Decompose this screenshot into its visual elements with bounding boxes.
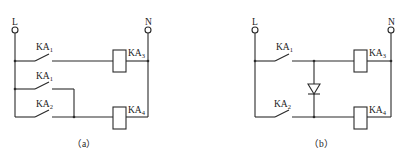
terminal-n-b (388, 27, 394, 33)
coil-label-ka3-a: KA3 (128, 48, 145, 59)
coil-label-ka4-a: KA4 (128, 105, 146, 116)
terminal-n-label-b: N (388, 17, 395, 27)
coil-ka3-b (354, 50, 367, 72)
coil-ka3-a (113, 50, 126, 72)
coil-ka4-b (354, 107, 367, 129)
terminal-l-a (12, 27, 18, 33)
terminal-l-label-b: L (252, 17, 258, 27)
contact-label-3-a: KA2 (36, 99, 53, 110)
coil-ka4-a (113, 107, 126, 129)
caption-a: （a） (72, 138, 96, 149)
terminal-l-b (252, 27, 258, 33)
terminal-l-label-a: L (12, 17, 18, 27)
contact-label-1-b: KA1 (276, 42, 293, 53)
terminal-n-label-a: N (145, 17, 152, 27)
contact-label-2-a: KA1 (36, 71, 53, 82)
contact-ka1-rung1-a (35, 54, 49, 61)
contact-ka1-rung2-a (35, 82, 49, 89)
coil-label-ka4-b: KA4 (369, 105, 387, 116)
panel-b: L N KA1 KA3 KA2 KA4 （b） (252, 17, 395, 149)
contact-label-2-b: KA2 (274, 99, 291, 110)
contact-label-1-a: KA1 (36, 42, 53, 53)
contact-ka1-b (275, 54, 289, 61)
panel-a: L N KA1 KA3 KA1 KA2 KA4 （a） (12, 17, 152, 149)
coil-label-ka3-b: KA3 (369, 48, 386, 59)
caption-b: （b） (309, 138, 334, 149)
contact-ka2-b (275, 110, 289, 117)
terminal-n-a (145, 27, 151, 33)
contact-ka2-a (35, 110, 49, 117)
circuit-diagram: L N KA1 KA3 KA1 KA2 KA4 （a） (0, 0, 401, 160)
diode-icon (308, 84, 320, 94)
